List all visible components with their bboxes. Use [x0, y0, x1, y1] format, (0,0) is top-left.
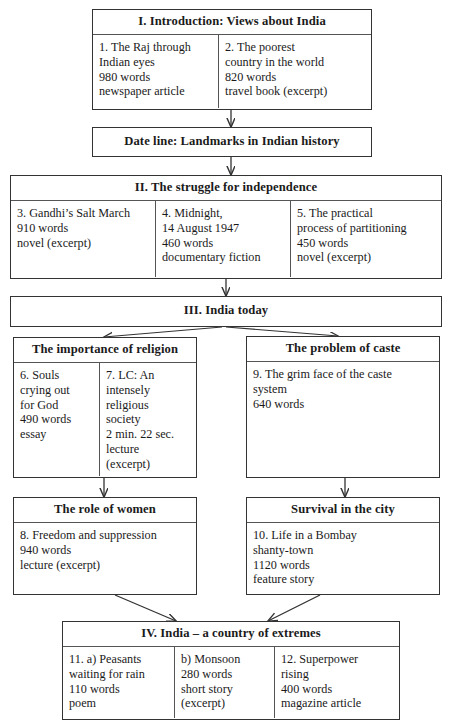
text-item-2: 2. The poorest country in the world 820 …	[219, 35, 371, 108]
flowchart-canvas: I. Introduction: Views about India 1. Th…	[0, 0, 452, 725]
arrow-women-to-extremes	[115, 595, 176, 621]
box-country-of-extremes: IV. India – a country of extremes 11. a)…	[62, 621, 400, 720]
box-dateline: Date line: Landmarks in Indian history	[92, 127, 372, 157]
text-item-12: 12. Superpower rising 400 words magazine…	[275, 647, 399, 718]
text-item-8: 8. Freedom and suppression 940 words lec…	[14, 523, 196, 577]
text-item-3: 3. Gandhi’s Salt March 910 words novel (…	[11, 201, 156, 277]
text-item-11a: 11. a) Peasants waiting for rain 110 wor…	[63, 647, 175, 718]
box-introduction: I. Introduction: Views about India 1. Th…	[92, 9, 372, 110]
text-item-5: 5. The practical process of partitioning…	[291, 201, 441, 277]
text-item-11b: b) Monsoon 280 words short story (excerp…	[175, 647, 275, 718]
arrow-today-to-caste	[226, 327, 338, 336]
women-header: The role of women	[14, 498, 196, 523]
introduction-header: I. Introduction: Views about India	[93, 10, 371, 35]
religion-columns: 6. Souls crying out for God 490 words es…	[14, 363, 196, 476]
extremes-header: IV. India – a country of extremes	[63, 622, 399, 647]
struggle-columns: 3. Gandhi’s Salt March 910 words novel (…	[11, 201, 441, 277]
box-survival-in-the-city: Survival in the city 10. Life in a Bomba…	[246, 497, 440, 595]
arrow-city-to-extremes	[268, 595, 320, 621]
arrow-today-to-religion	[104, 327, 222, 337]
text-item-4: 4. Midnight, 14 August 1947 460 words do…	[156, 201, 291, 277]
text-item-7: 7. LC: An intensely religious society 2 …	[100, 363, 196, 476]
text-item-10: 10. Life in a Bombay shanty-town 1120 wo…	[247, 523, 439, 592]
text-item-6: 6. Souls crying out for God 490 words es…	[14, 363, 100, 476]
caste-header: The problem of caste	[247, 337, 439, 362]
text-item-1: 1. The Raj through Indian eyes 980 words…	[93, 35, 219, 108]
dateline-header: Date line: Landmarks in Indian history	[93, 128, 371, 154]
city-header: Survival in the city	[247, 498, 439, 523]
box-struggle-for-independence: II. The struggle for independence 3. Gan…	[10, 175, 442, 279]
india-today-header: III. India today	[11, 297, 441, 323]
box-problem-of-caste: The problem of caste 9. The grim face of…	[246, 336, 440, 478]
religion-header: The importance of religion	[14, 338, 196, 363]
box-role-of-women: The role of women 8. Freedom and suppres…	[13, 497, 197, 595]
extremes-columns: 11. a) Peasants waiting for rain 110 wor…	[63, 647, 399, 718]
text-item-9: 9. The grim face of the caste system 640…	[247, 362, 439, 416]
box-importance-of-religion: The importance of religion 6. Souls cryi…	[13, 337, 197, 478]
struggle-header: II. The struggle for independence	[11, 176, 441, 201]
box-india-today: III. India today	[10, 296, 442, 327]
introduction-columns: 1. The Raj through Indian eyes 980 words…	[93, 35, 371, 108]
